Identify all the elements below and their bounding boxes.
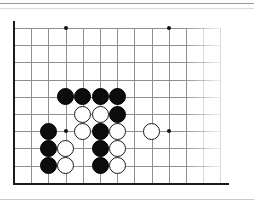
- black-stone[interactable]: [92, 88, 109, 105]
- black-stone[interactable]: [92, 157, 109, 174]
- grid-line-vertical: [31, 28, 32, 183]
- hoshi-left-side-icon: [64, 129, 68, 133]
- hoshi-upper-left-icon: [64, 26, 68, 30]
- black-stone[interactable]: [109, 88, 126, 105]
- go-board[interactable]: [0, 0, 254, 208]
- white-stone[interactable]: [57, 140, 74, 157]
- grid-line-vertical: [203, 28, 204, 183]
- hoshi-middle-icon: [167, 129, 171, 133]
- grid-line-vertical: [152, 28, 153, 183]
- white-stone[interactable]: [109, 140, 126, 157]
- grid-line-vertical: [134, 28, 135, 183]
- white-stone[interactable]: [109, 123, 126, 140]
- grid-line-vertical: [220, 28, 221, 183]
- black-stone[interactable]: [40, 123, 57, 140]
- black-stone[interactable]: [92, 123, 109, 140]
- board-edge-bottom: [13, 183, 229, 185]
- white-stone[interactable]: [92, 106, 109, 123]
- black-stone[interactable]: [40, 157, 57, 174]
- hoshi-upper-middle-icon: [167, 26, 171, 30]
- grid-line-vertical: [169, 28, 170, 183]
- black-stone[interactable]: [57, 88, 74, 105]
- grid-line-vertical: [186, 28, 187, 183]
- white-stone[interactable]: [57, 157, 74, 174]
- white-stone[interactable]: [109, 157, 126, 174]
- black-stone[interactable]: [92, 140, 109, 157]
- black-stone[interactable]: [74, 88, 91, 105]
- board-edge-left: [13, 21, 15, 185]
- white-stone[interactable]: [74, 123, 91, 140]
- white-stone[interactable]: [143, 123, 160, 140]
- go-diagram-screenshot: [0, 0, 254, 208]
- white-stone[interactable]: [74, 106, 91, 123]
- black-stone[interactable]: [109, 106, 126, 123]
- black-stone[interactable]: [40, 140, 57, 157]
